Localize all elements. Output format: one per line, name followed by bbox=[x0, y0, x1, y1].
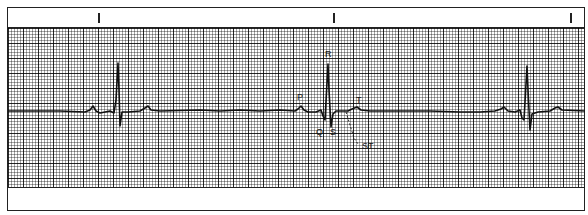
t-wave-label: T bbox=[356, 96, 362, 105]
st-leader-line bbox=[346, 112, 358, 144]
st-segment-label: ST bbox=[362, 142, 374, 151]
ecg-trace bbox=[0, 0, 588, 215]
q-wave-label: Q bbox=[316, 128, 323, 137]
r-wave-label: R bbox=[325, 50, 332, 59]
s-wave-label: S bbox=[330, 128, 336, 137]
p-wave-label: P bbox=[297, 93, 303, 102]
